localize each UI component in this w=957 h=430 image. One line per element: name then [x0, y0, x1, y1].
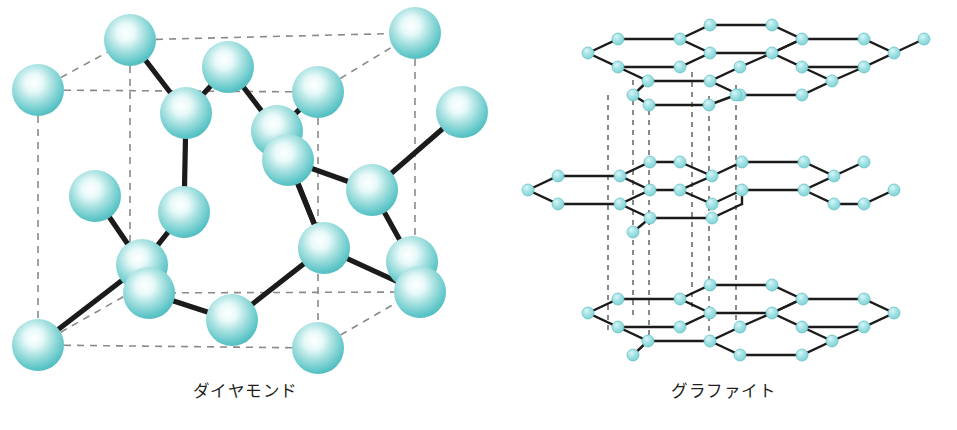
carbon-node: [644, 212, 656, 224]
carbon-node: [706, 212, 718, 224]
atom-sphere: [346, 164, 398, 216]
carbon-node: [858, 156, 870, 168]
carbon-node: [552, 170, 564, 182]
carbon-node: [766, 307, 778, 319]
carbon-node: [644, 184, 656, 196]
carbon-node: [642, 335, 654, 347]
atom-sphere: [298, 222, 350, 274]
carbon-node: [826, 335, 838, 347]
carbon-node: [627, 349, 639, 361]
carbon-node: [858, 198, 870, 210]
carbon-node: [522, 184, 534, 196]
carbon-node: [674, 156, 686, 168]
carbon-node: [858, 33, 870, 45]
caption-graphite: グラファイト: [490, 378, 957, 402]
carbon-node: [826, 75, 838, 87]
carbon-node: [704, 47, 716, 59]
carbon-node: [612, 321, 624, 333]
diamond-lattice-diagram: [0, 0, 490, 380]
carbon-node: [766, 279, 778, 291]
carbon-node: [858, 321, 870, 333]
graphite-layer-top: [582, 19, 930, 111]
carbon-node: [612, 293, 624, 305]
carbon-node: [766, 47, 778, 59]
atom-sphere: [389, 7, 441, 59]
carbon-node: [704, 19, 716, 31]
atom-sphere: [394, 266, 446, 318]
carbon-node: [674, 61, 686, 73]
carbon-node: [736, 184, 748, 196]
figure-root: ダイヤモンド: [0, 0, 957, 430]
carbon-node: [674, 321, 686, 333]
carbon-node: [627, 89, 639, 101]
graphite-lattice-diagram: [490, 0, 957, 380]
carbon-node: [612, 61, 624, 73]
carbon-node: [796, 61, 808, 73]
carbon-node: [796, 89, 808, 101]
carbon-node: [644, 156, 656, 168]
carbon-node: [858, 61, 870, 73]
carbon-node: [888, 307, 900, 319]
carbon-node: [736, 156, 748, 168]
carbon-node: [612, 33, 624, 45]
carbon-node: [766, 19, 778, 31]
carbon-node: [734, 61, 746, 73]
graphite-layer-middle: [522, 156, 900, 238]
carbon-node: [828, 198, 840, 210]
carbon-node: [582, 307, 594, 319]
carbon-node: [918, 33, 930, 45]
atom-sphere: [436, 86, 488, 138]
carbon-node: [888, 47, 900, 59]
carbon-node: [614, 198, 626, 210]
atom-sphere: [292, 322, 344, 374]
carbon-node: [703, 99, 715, 111]
panel-diamond: ダイヤモンド: [0, 0, 490, 430]
atom-sphere: [160, 87, 212, 139]
carbon-node: [674, 33, 686, 45]
carbon-node: [734, 321, 746, 333]
atom-sphere: [12, 64, 64, 116]
carbon-node: [796, 349, 808, 361]
atom-sphere: [12, 319, 64, 371]
atom-sphere: [158, 186, 210, 238]
carbon-node: [582, 47, 594, 59]
carbon-node: [888, 184, 900, 196]
carbon-node: [706, 170, 718, 182]
atom-sphere: [123, 267, 175, 319]
caption-diamond: ダイヤモンド: [0, 378, 490, 402]
carbon-node: [798, 184, 810, 196]
carbon-node: [796, 293, 808, 305]
carbon-node: [704, 279, 716, 291]
graphite-layer-bottom: [582, 279, 900, 361]
carbon-node: [796, 321, 808, 333]
carbon-node: [734, 349, 746, 361]
carbon-node: [614, 170, 626, 182]
carbon-node: [674, 293, 686, 305]
carbon-node: [858, 293, 870, 305]
carbon-node: [627, 226, 639, 238]
atom-sphere: [202, 41, 254, 93]
atom-sphere: [292, 66, 344, 118]
carbon-node: [796, 33, 808, 45]
atom-sphere: [262, 134, 314, 186]
carbon-node: [798, 156, 810, 168]
atom-sphere: [104, 14, 156, 66]
carbon-node: [704, 75, 716, 87]
carbon-node: [706, 198, 718, 210]
carbon-node: [704, 335, 716, 347]
carbon-node: [642, 75, 654, 87]
carbon-node: [704, 307, 716, 319]
carbon-node: [552, 198, 564, 210]
panel-graphite: グラファイト: [490, 0, 957, 430]
atom-sphere: [206, 294, 258, 346]
carbon-node: [828, 170, 840, 182]
atom-sphere: [69, 170, 121, 222]
carbon-node: [730, 89, 742, 101]
carbon-node: [674, 184, 686, 196]
carbon-node: [643, 99, 655, 111]
